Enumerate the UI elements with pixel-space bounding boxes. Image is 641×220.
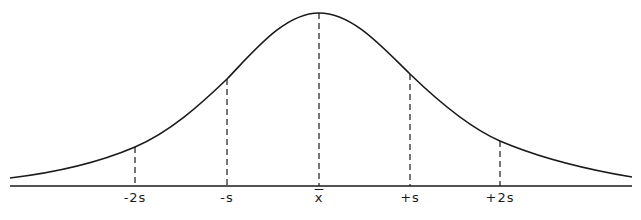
label-plus-s: +s xyxy=(400,190,420,205)
label-minus-2s: -2s xyxy=(124,190,147,205)
bell-curve xyxy=(10,13,632,178)
label-plus-2s: +2s xyxy=(486,190,515,205)
sd-marker-lines xyxy=(135,13,500,186)
label-minus-s: -s xyxy=(220,190,233,205)
label-mean-xbar: x xyxy=(315,190,324,205)
normal-distribution-diagram xyxy=(0,0,641,220)
